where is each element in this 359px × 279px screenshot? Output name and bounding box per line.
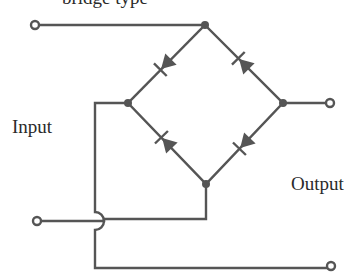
input-terminal-bottom-icon bbox=[33, 217, 41, 225]
bridge-rectifier-diagram: bridge type bbox=[0, 0, 359, 279]
wire-bottom-node-drop bbox=[104, 184, 206, 219]
output-terminal-top-icon bbox=[326, 99, 334, 107]
node-top-dot bbox=[201, 21, 209, 29]
node-left-dot bbox=[124, 99, 132, 107]
output-label: Output bbox=[291, 174, 344, 193]
output-terminal-bottom-icon bbox=[327, 262, 335, 270]
node-right-dot bbox=[279, 99, 287, 107]
input-label: Input bbox=[12, 117, 52, 136]
input-terminal-top-icon bbox=[31, 21, 39, 29]
circuit-schematic bbox=[0, 0, 359, 279]
node-bottom-dot bbox=[202, 180, 210, 188]
